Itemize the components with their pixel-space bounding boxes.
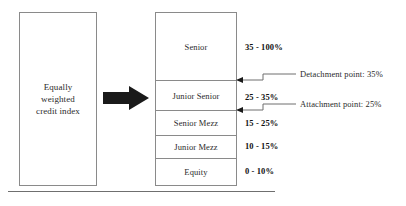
- pool-label-line-2: weighted: [41, 94, 75, 104]
- tranche-junior-mezz: Junior Mezz: [156, 136, 236, 159]
- tranche-senior: Senior: [156, 13, 236, 81]
- callout-detachment-point: Detachment point: 35%: [300, 69, 383, 79]
- tranche-senior-mezz-label: Senior Mezz: [174, 118, 218, 128]
- pool-label-line-1: Equally: [44, 82, 73, 92]
- collateral-pool-label: Equally weighted credit index: [36, 81, 80, 117]
- tranche-structure-figure: Equally weighted credit index Senior Jun…: [0, 0, 406, 206]
- callout-attachment-point: Attachment point: 25%: [300, 99, 381, 109]
- range-label-equity: 0 - 10%: [245, 166, 274, 176]
- range-label-senior-mezz: 15 - 25%: [245, 118, 278, 128]
- tranche-junior-mezz-label: Junior Mezz: [174, 142, 217, 152]
- tranche-senior-label: Senior: [185, 42, 208, 52]
- bottom-divider: [8, 191, 275, 192]
- right-block-arrow-icon: [103, 86, 149, 110]
- detachment-leader-line: [236, 74, 296, 83]
- tranche-equity: Equity: [156, 159, 236, 185]
- tranche-junior-senior-label: Junior Senior: [173, 91, 220, 101]
- tranche-stack: Senior Junior Senior Senior Mezz Junior …: [155, 12, 237, 186]
- tranche-senior-mezz: Senior Mezz: [156, 111, 236, 136]
- tranche-equity-label: Equity: [184, 167, 207, 177]
- attachment-leader-line: [236, 104, 296, 113]
- pool-label-line-3: credit index: [36, 106, 80, 116]
- range-label-senior: 35 - 100%: [245, 42, 283, 52]
- range-label-junior-mezz: 10 - 15%: [245, 141, 278, 151]
- range-label-junior-senior: 25 - 35%: [245, 92, 278, 102]
- collateral-pool-box: Equally weighted credit index: [19, 12, 97, 186]
- tranche-junior-senior: Junior Senior: [156, 81, 236, 111]
